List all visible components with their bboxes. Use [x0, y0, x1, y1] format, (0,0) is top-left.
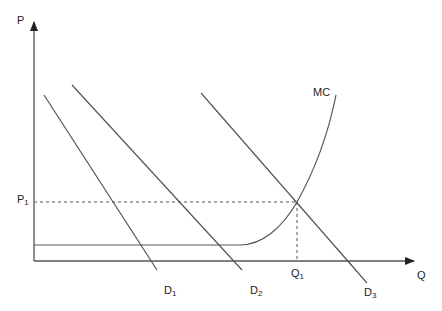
d1-label: D1: [164, 285, 176, 298]
diagram-canvas: [0, 0, 442, 311]
demand-curve-d1: [44, 95, 157, 270]
mc-curve: [34, 95, 336, 245]
y-axis-label: P: [17, 15, 24, 26]
x-axis-label: Q: [417, 270, 426, 281]
q1-label: Q1: [291, 268, 304, 281]
demand-curve-d3: [201, 93, 367, 283]
d3-label: D3: [364, 287, 376, 300]
p1-label: P1: [17, 194, 29, 207]
d2-label: D2: [250, 285, 262, 298]
mc-label: MC: [313, 87, 330, 98]
